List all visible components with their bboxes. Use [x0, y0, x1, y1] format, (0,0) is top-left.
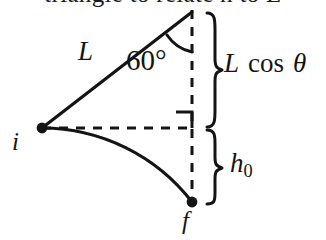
- label-h0-subscript: 0: [244, 161, 253, 181]
- pendulum-diagram: [0, 0, 326, 240]
- label-rod-length: L: [78, 38, 93, 65]
- filled-dot-icon-f: [187, 197, 198, 208]
- right-angle-marker-icon: [176, 112, 192, 128]
- label-h-zero: h0: [230, 150, 253, 181]
- label-angle-60: 60°: [126, 46, 167, 75]
- label-point-f: f: [182, 208, 189, 233]
- label-l-cos-theta: L cos θ: [224, 50, 306, 77]
- swing-arc-path: [42, 128, 192, 202]
- label-h0-symbol: h: [230, 148, 244, 178]
- figure-root: triangle to relate h to L L 60° i f L co…: [0, 0, 326, 240]
- label-lcos-symbol: L: [224, 48, 239, 78]
- brace-upper-icon: [207, 13, 222, 127]
- label-lcos-variable: θ: [293, 48, 306, 78]
- filled-dot-icon-i: [37, 123, 48, 134]
- rod-line-L: [42, 12, 192, 128]
- brace-lower-icon: [207, 130, 222, 204]
- label-point-i: i: [12, 129, 19, 154]
- label-lcos-function: cos: [248, 48, 284, 78]
- angle-arc-icon: [167, 35, 192, 52]
